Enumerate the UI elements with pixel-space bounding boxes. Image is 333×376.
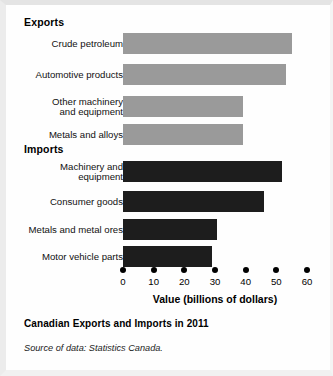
axis-tick-dot xyxy=(212,267,218,273)
figure-caption: Canadian Exports and Imports in 2011 xyxy=(24,318,209,329)
bar-category-label: Motor vehicle parts xyxy=(0,251,123,262)
bar-row: Crude petroleum xyxy=(6,33,330,54)
bar-category-label: Metals and alloys xyxy=(0,129,123,140)
axis-tick-label: 40 xyxy=(231,276,261,287)
bar-row: Automotive products xyxy=(6,64,330,85)
bar-import xyxy=(123,161,282,182)
axis-tick-label: 30 xyxy=(200,276,230,287)
bar-category-label: Consumer goods xyxy=(0,196,123,207)
axis-tick-dot xyxy=(151,267,157,273)
bar-export xyxy=(123,64,286,85)
bar-category-label: Machinery and equipment xyxy=(0,161,123,182)
bar-row: Metals and metal ores xyxy=(6,219,330,240)
figure-source: Source of data: Statistics Canada. xyxy=(24,343,163,353)
axis-tick-dot xyxy=(273,267,279,273)
axis-title: Value (billions of dollars) xyxy=(6,293,330,305)
bar-category-label: Crude petroleum xyxy=(0,38,123,49)
bar-import xyxy=(123,246,212,267)
bar-category-label: Metals and metal ores xyxy=(0,224,123,235)
axis-tick-dot xyxy=(120,267,126,273)
bar-row: Consumer goods xyxy=(6,191,330,212)
bar-row: Metals and alloys xyxy=(6,124,330,145)
bar-category-label: Automotive products xyxy=(0,69,123,80)
axis-tick-dot xyxy=(243,267,249,273)
bar-export xyxy=(123,124,243,145)
axis-tick-label: 20 xyxy=(169,276,199,287)
figure-panel: Exports Imports Crude petroleumAutomotiv… xyxy=(0,0,333,376)
bar-export xyxy=(123,33,292,54)
bar-import xyxy=(123,191,264,212)
bar-import xyxy=(123,219,217,240)
bar-row: Machinery and equipment xyxy=(6,161,330,182)
figure-inner: Exports Imports Crude petroleumAutomotiv… xyxy=(6,5,330,370)
axis-tick-label: 10 xyxy=(139,276,169,287)
bar-row: Other machinery and equipment xyxy=(6,96,330,117)
bar-row: Motor vehicle parts xyxy=(6,246,330,267)
bar-export xyxy=(123,96,243,117)
axis-tick-label: 0 xyxy=(108,276,138,287)
axis-tick-label: 60 xyxy=(292,276,322,287)
bar-category-label: Other machinery and equipment xyxy=(0,96,123,117)
axis-tick-dot xyxy=(304,267,310,273)
axis-tick-dot xyxy=(181,267,187,273)
section-heading-exports: Exports xyxy=(24,16,64,28)
axis-tick-label: 50 xyxy=(261,276,291,287)
